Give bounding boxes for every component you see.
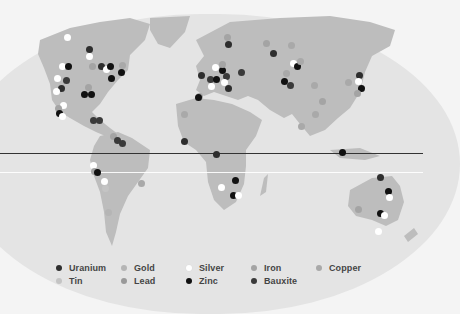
deposit-marker-iron <box>89 63 96 70</box>
deposit-marker-copper <box>312 111 319 118</box>
deposit-marker-bauxite <box>63 77 70 84</box>
legend-item-uranium: Uranium <box>56 263 121 273</box>
deposit-marker-copper <box>119 62 126 69</box>
deposit-marker-bauxite <box>238 69 245 76</box>
deposit-marker-silver <box>218 184 225 191</box>
iron-dot-icon <box>251 265 257 271</box>
legend-item-lead: Lead <box>121 276 186 286</box>
deposit-marker-silver <box>235 192 242 199</box>
deposit-marker-bauxite <box>287 82 294 89</box>
legend-label: Lead <box>134 276 155 286</box>
deposit-marker-uranium <box>181 138 188 145</box>
madagascar <box>260 174 268 196</box>
deposit-marker-uranium <box>86 46 93 53</box>
deposit-marker-zinc <box>213 76 220 83</box>
deposit-marker-zinc <box>195 94 202 101</box>
deposit-marker-copper <box>297 58 304 65</box>
deposit-marker-copper <box>283 70 290 77</box>
deposit-marker-silver <box>53 88 60 95</box>
greenland <box>150 16 190 48</box>
lead-dot-icon <box>121 278 127 284</box>
zinc-dot-icon <box>186 278 192 284</box>
deposit-marker-silver <box>375 228 382 235</box>
legend: Uranium Gold Silver Iron Copper Tin Lead <box>56 261 386 287</box>
deposit-marker-uranium <box>377 174 384 181</box>
legend-label: Zinc <box>199 276 218 286</box>
deposit-marker-iron <box>354 90 361 97</box>
deposit-marker-copper <box>181 111 188 118</box>
deposit-marker-tin <box>102 185 109 192</box>
legend-row-1: Uranium Gold Silver Iron Copper <box>56 261 386 274</box>
deposit-marker-zinc <box>88 91 95 98</box>
deposit-marker-iron <box>263 40 270 47</box>
deposit-marker-iron <box>355 206 362 213</box>
deposit-marker-iron <box>319 98 326 105</box>
deposit-marker-silver <box>208 83 215 90</box>
deposit-marker-silver <box>212 64 219 71</box>
deposit-marker-zinc <box>94 169 101 176</box>
bauxite-dot-icon <box>251 278 257 284</box>
deposit-marker-iron <box>219 61 226 68</box>
deposit-marker-gold <box>105 209 112 216</box>
deposit-marker-zinc <box>339 149 346 156</box>
deposit-marker-silver <box>54 75 61 82</box>
legend-label: Copper <box>329 263 361 273</box>
deposit-marker-silver <box>381 212 388 219</box>
deposit-marker-copper <box>311 82 318 89</box>
legend-item-copper: Copper <box>316 263 381 273</box>
deposit-marker-silver <box>101 178 108 185</box>
deposit-marker-uranium <box>198 72 205 79</box>
deposit-marker-zinc <box>107 63 114 70</box>
legend-item-tin: Tin <box>56 276 121 286</box>
gold-dot-icon <box>121 265 127 271</box>
deposit-marker-zinc <box>118 69 125 76</box>
deposit-marker-zinc <box>65 63 72 70</box>
deposit-marker-bauxite <box>96 117 103 124</box>
deposit-marker-uranium <box>270 50 277 57</box>
deposit-marker-iron <box>85 84 92 91</box>
deposit-marker-silver <box>86 53 93 60</box>
uranium-dot-icon <box>56 265 62 271</box>
tropic-line <box>0 172 423 173</box>
deposit-marker-copper <box>345 79 352 86</box>
legend-label: Silver <box>199 263 224 273</box>
legend-label: Gold <box>134 263 155 273</box>
deposit-marker-silver <box>64 34 71 41</box>
deposit-marker-zinc <box>232 177 239 184</box>
deposit-marker-uranium <box>225 41 232 48</box>
deposit-marker-iron <box>224 34 231 41</box>
legend-row-2: Tin Lead Zinc Bauxite <box>56 274 386 287</box>
tin-dot-icon <box>56 278 62 284</box>
deposit-marker-silver <box>386 194 393 201</box>
legend-label: Bauxite <box>264 276 297 286</box>
legend-label: Iron <box>264 263 281 273</box>
legend-item-silver: Silver <box>186 263 251 273</box>
legend-label: Uranium <box>69 263 106 273</box>
legend-item-bauxite: Bauxite <box>251 276 316 286</box>
equator-line <box>0 153 423 154</box>
legend-label: Tin <box>69 276 83 286</box>
deposit-marker-uranium <box>225 85 232 92</box>
silver-dot-icon <box>186 265 192 271</box>
indonesia <box>330 148 380 160</box>
deposit-marker-uranium <box>213 151 220 158</box>
deposit-marker-copper <box>288 42 295 49</box>
deposit-marker-zinc <box>108 75 115 82</box>
legend-item-gold: Gold <box>121 263 186 273</box>
australia <box>348 176 404 226</box>
deposit-marker-copper <box>298 123 305 130</box>
south-america <box>90 132 150 246</box>
copper-dot-icon <box>316 265 322 271</box>
deposit-marker-copper <box>138 180 145 187</box>
deposit-marker-zinc <box>81 91 88 98</box>
deposit-marker-silver <box>355 78 362 85</box>
deposit-marker-bauxite <box>119 140 126 147</box>
legend-item-iron: Iron <box>251 263 316 273</box>
legend-item-zinc: Zinc <box>186 276 251 286</box>
new-zealand <box>404 228 418 242</box>
deposit-marker-silver <box>59 113 66 120</box>
